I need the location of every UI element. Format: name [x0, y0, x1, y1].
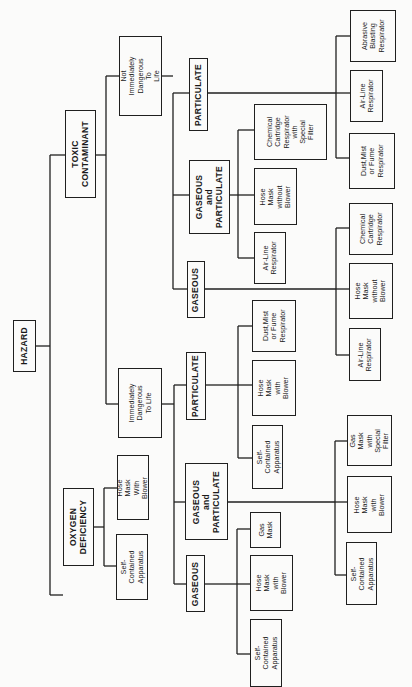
node-idl-gaseous-and-particulate: GASEOUS and PARTICULATE [185, 463, 228, 540]
node-oxygen-hose-mask-with-blower: Hose Mask With Blower [117, 455, 149, 520]
node-nid-gaseous: GASEOUS [187, 261, 205, 318]
node-toxic-contaminant: TOXIC CONTAMINANT [65, 110, 96, 198]
leaf-idl-part-hose-mask-with-blower: Hose Mask with Blower [252, 360, 296, 416]
leaf-idl-gas-hose-mask-with-blower: Hose Mask with Blower [250, 555, 293, 611]
leaf-nid-gas-air-line-respirator: Air-Line Respirator [349, 328, 381, 381]
leaf-nid-particulate-air-line-respirator: Air-Line Respirator [350, 70, 383, 122]
leaf-gas-mask: Gas Mask [250, 512, 281, 548]
node-nid-gaseous-and-particulate: GASEOUS and PARTICULATE [189, 160, 230, 234]
leaf-idl-gp-self-contained-apparatus: Self-Contained Apparatus [346, 542, 377, 605]
leaf-gas-mask-with-special-filter: Gas Mask with Special Filter [347, 415, 392, 466]
leaf-nid-gp-hose-mask-without-blower: Hose Mask without Blower [254, 168, 297, 225]
node-oxygen-self-contained-apparatus: Self-Contained Apparatus [116, 534, 148, 600]
leaf-idl-part-self-contained-apparatus: Self-Contained Apparatus [252, 425, 283, 489]
leaf-idl-gp-hose-mask-with-blower: Hose Mask with Blower [347, 476, 392, 533]
node-oxygen-deficiency: OXYGEN DEFICIENCY [63, 488, 94, 566]
node-immediately-dangerous: Immediately Dangerous To Life [118, 368, 162, 438]
leaf-chemical-cartridge-special-filter: Chemical Cartridge Respirator with Speci… [254, 104, 327, 160]
node-hazard: HAZARD [13, 320, 36, 372]
leaf-idl-dust-mist-fume-respirator: Dust,Mist or Fume Respirator [252, 300, 296, 352]
node-idl-gaseous: GASEOUS [186, 555, 205, 612]
node-not-immediately-dangerous: Not Immediately Dangerous To Life [119, 36, 162, 116]
respirator-selection-tree: HAZARD TOXIC CONTAMINANT OXYGEN DEFICIEN… [0, 0, 412, 687]
leaf-idl-gas-self-contained-apparatus: Self-Contained Apparatus [250, 619, 282, 687]
leaf-chemical-cartridge-respirator: Chemical Cartridge Respirator [349, 203, 393, 255]
leaf-nid-gp-air-line-respirator: Air-Line Respirator [254, 232, 286, 284]
node-nid-particulate: PARTICULATE [189, 58, 208, 131]
leaf-abrasive-blasting-respirator: Abrasive Blasting Respirator [350, 10, 396, 62]
leaf-nid-gas-hose-mask-without-blower: Hose Mask without Blower [349, 263, 393, 319]
leaf-nid-dust-mist-fume-respirator: Dust,Mist or Fume Respirator [349, 133, 395, 189]
node-idl-particulate: PARTICULATE [186, 352, 206, 420]
